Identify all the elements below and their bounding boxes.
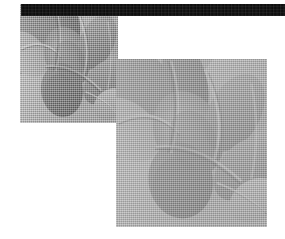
image-plate-light [116,59,267,227]
halftone-artwork-dark [20,4,118,123]
image-plate-dark [20,4,118,123]
top-black-rule [21,4,285,16]
halftone-artwork-light [116,59,267,227]
image-canvas [0,0,285,239]
